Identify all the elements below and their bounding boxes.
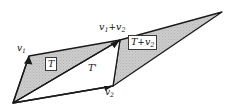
label-T-plus-v2-operator: +	[137, 37, 145, 47]
label-v1-sub: 1	[22, 47, 26, 54]
label-T-prime-text: T'	[88, 62, 97, 73]
label-T-plus-v2-sub2: 2	[150, 41, 154, 49]
label-v1: v1	[17, 44, 26, 54]
label-T: T	[45, 57, 57, 71]
label-v1-plus-v2: v1+v2	[99, 22, 126, 33]
label-v1-plus-v2-operator: +	[108, 22, 116, 32]
vector-sum-diagram: v1 v1+v2 v2 T T+v2 T'	[0, 0, 238, 112]
diagram-canvas	[0, 0, 238, 112]
label-T-plus-v2: T+v2	[128, 35, 157, 50]
label-v2: v2	[105, 88, 114, 98]
label-v2-sub: 2	[110, 91, 114, 98]
label-v1-plus-v2-sub2: 2	[121, 26, 125, 34]
label-T-prime: T'	[88, 63, 97, 73]
label-T-text: T	[48, 58, 54, 69]
